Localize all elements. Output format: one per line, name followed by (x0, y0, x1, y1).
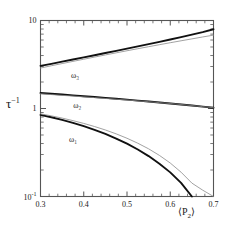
y-axis-title-exponent: −1 (11, 96, 20, 105)
axis-ticks (41, 21, 214, 197)
plot-frame (41, 21, 214, 197)
annotation-omega-2: ω₂ (73, 101, 81, 110)
curve-1 (41, 29, 214, 66)
curve-6 (41, 114, 214, 197)
y-axis-title: τ−1 (6, 96, 20, 112)
curve-5 (41, 115, 192, 197)
x-tick-label-0.5: 0.5 (122, 200, 132, 209)
x-axis-title: ⟨P2⟩ (178, 206, 195, 220)
x-tick-label-0.3: 0.3 (36, 200, 46, 209)
data-curves (41, 29, 214, 196)
x-tick-label-0.6: 0.6 (165, 200, 175, 209)
annotation-omega-3: ω₃ (71, 71, 79, 80)
y-tick-label-1: 1 (33, 104, 37, 113)
frame-rect (41, 21, 214, 197)
curve-2 (41, 35, 214, 68)
x-tick-label-0.7: 0.7 (209, 200, 219, 209)
figure-canvas: τ−1 ⟨P2⟩ 10110-1 0.30.40.50.60.7 ω₃ω₂ω₁ (0, 0, 231, 229)
annotation-omega-1: ω₁ (69, 135, 77, 144)
x-tick-label-0.4: 0.4 (79, 200, 89, 209)
y-tick-label-10: 10 (29, 16, 37, 25)
x-axis-title-text: ⟨P (178, 206, 188, 217)
